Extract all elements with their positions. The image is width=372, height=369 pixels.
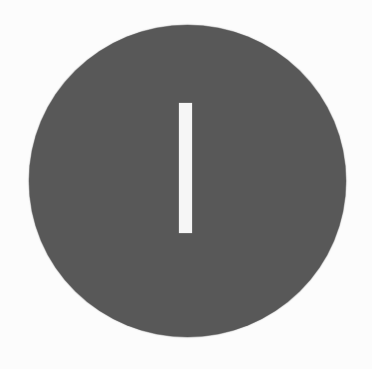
icon-canvas: I	[0, 0, 372, 369]
glyph-label: I	[0, 0, 1, 1]
vertical-bar-icon	[179, 103, 192, 233]
